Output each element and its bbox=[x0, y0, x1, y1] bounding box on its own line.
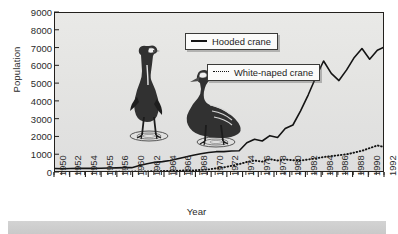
x-tick-label: 1950 bbox=[58, 155, 68, 176]
x-axis-title: Year bbox=[0, 206, 393, 217]
x-tick-label: 1986 bbox=[340, 155, 350, 176]
x-tick-label: 1952 bbox=[73, 155, 83, 176]
x-tick-label: 1962 bbox=[152, 155, 162, 176]
x-tick-label: 1976 bbox=[262, 155, 272, 176]
x-tick-label: 1988 bbox=[356, 155, 366, 176]
x-tick-label: 1980 bbox=[293, 155, 303, 176]
x-tick-label: 1964 bbox=[168, 155, 178, 176]
x-tick-label: 1955 bbox=[105, 155, 115, 176]
x-tick-label: 1956 bbox=[120, 155, 130, 176]
x-tick-label: 1978 bbox=[278, 155, 288, 176]
x-tick-label: 1982 bbox=[309, 155, 319, 176]
x-tick-label: 1960 bbox=[136, 155, 146, 176]
x-tick-label: 1990 bbox=[372, 155, 382, 176]
x-tick-label: 1972 bbox=[230, 155, 240, 176]
x-tick-label: 1992 bbox=[388, 155, 398, 176]
x-tick-label: 1974 bbox=[246, 155, 256, 176]
x-tick-label: 1984 bbox=[325, 155, 335, 176]
bottom-gray-band bbox=[8, 221, 386, 234]
x-tick-label: 1970 bbox=[215, 155, 225, 176]
x-tick-label: 1966 bbox=[183, 155, 193, 176]
x-tick-label: 1968 bbox=[199, 155, 209, 176]
x-tick-label: 1954 bbox=[89, 155, 99, 176]
